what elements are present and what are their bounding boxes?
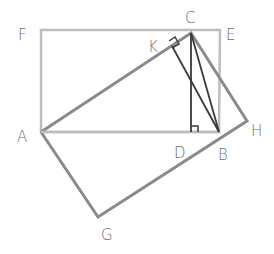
label-h: H — [251, 122, 262, 140]
label-a: A — [17, 128, 27, 146]
geometry-diagram: F C E K A D B H G — [0, 0, 274, 254]
label-d: D — [174, 144, 186, 162]
label-c: C — [185, 9, 195, 27]
label-f: F — [18, 26, 27, 44]
segment-kb — [172, 46, 219, 132]
label-b: B — [218, 146, 228, 164]
label-g: G — [101, 226, 113, 244]
segment-cb — [191, 33, 219, 132]
rectangle-afeb — [41, 30, 220, 132]
label-e: E — [226, 26, 235, 44]
label-k: K — [148, 38, 158, 56]
